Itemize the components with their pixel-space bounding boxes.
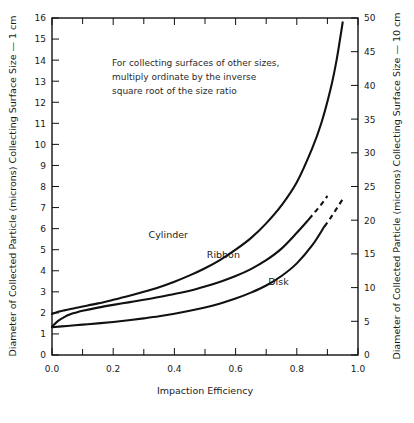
annotation-line-1: For collecting surfaces of other sizes, bbox=[112, 58, 279, 68]
annotation-line-3: square root of the size ratio bbox=[112, 86, 237, 96]
y-tick-label-right: 5 bbox=[364, 317, 370, 327]
y-tick-label-right: 15 bbox=[364, 249, 375, 259]
x-tick-label: 0.8 bbox=[290, 364, 305, 374]
x-tick-label: 1.0 bbox=[351, 364, 366, 374]
x-tick-label: 0.4 bbox=[167, 364, 182, 374]
y-tick-label-right: 0 bbox=[364, 350, 370, 360]
y-tick-label-right: 25 bbox=[364, 182, 375, 192]
y-tick-label-left: 3 bbox=[40, 287, 46, 297]
y-tick-label-left: 12 bbox=[35, 98, 46, 108]
chart-svg: 0.00.20.40.60.81.00123456789101112131415… bbox=[0, 0, 414, 423]
y-tick-label-right: 50 bbox=[364, 13, 376, 23]
y-tick-label-left: 10 bbox=[35, 140, 47, 150]
y-tick-label-left: 5 bbox=[40, 245, 46, 255]
x-tick-label: 0.0 bbox=[45, 364, 60, 374]
y-tick-label-right: 30 bbox=[364, 148, 376, 158]
y-tick-label-left: 1 bbox=[40, 329, 46, 339]
curve-label-disk: Disk bbox=[268, 276, 289, 287]
y-tick-label-left: 9 bbox=[40, 161, 46, 171]
x-axis-title: Impaction Efficiency bbox=[157, 385, 253, 396]
y-tick-label-left: 8 bbox=[40, 182, 46, 192]
y-tick-label-left: 13 bbox=[35, 77, 46, 87]
y-tick-label-right: 40 bbox=[364, 81, 376, 91]
y-tick-label-right: 45 bbox=[364, 47, 375, 57]
curve-label-ribbon: Ribbon bbox=[207, 249, 240, 260]
y-tick-label-left: 4 bbox=[40, 266, 46, 276]
y-tick-label-right: 10 bbox=[364, 283, 376, 293]
x-tick-label: 0.2 bbox=[106, 364, 120, 374]
annotation-line-2: multiply ordinate by the inverse bbox=[112, 72, 257, 82]
y-tick-label-left: 2 bbox=[40, 308, 46, 318]
y-tick-label-left: 6 bbox=[40, 224, 46, 234]
x-tick-label: 0.6 bbox=[228, 364, 243, 374]
y-tick-label-left: 15 bbox=[35, 34, 46, 44]
y-tick-label-left: 16 bbox=[35, 13, 47, 23]
y-axis-title-left: Diameter of Collected Particle (microns)… bbox=[7, 15, 18, 356]
y-tick-label-left: 0 bbox=[40, 350, 46, 360]
y-tick-label-left: 11 bbox=[35, 119, 46, 129]
y-tick-label-right: 20 bbox=[364, 216, 376, 226]
impaction-efficiency-chart: 0.00.20.40.60.81.00123456789101112131415… bbox=[0, 0, 414, 423]
y-axis-title-right: Diameter of Collected Particle (microns)… bbox=[391, 12, 402, 359]
curve-label-cylinder: Cylinder bbox=[149, 229, 188, 240]
y-tick-label-right: 35 bbox=[364, 115, 375, 125]
y-tick-label-left: 7 bbox=[40, 203, 46, 213]
y-tick-label-left: 14 bbox=[35, 56, 47, 66]
